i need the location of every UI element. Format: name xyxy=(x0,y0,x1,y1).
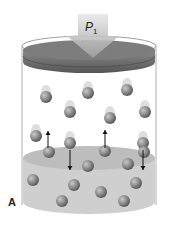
panel-label: A xyxy=(8,196,16,208)
molecule xyxy=(30,130,42,142)
molecule xyxy=(64,106,76,118)
pressure-subscript: 1 xyxy=(93,27,97,36)
molecule xyxy=(82,87,94,99)
molecule xyxy=(40,91,52,103)
molecule xyxy=(56,195,68,207)
molecule xyxy=(104,112,116,124)
pressure-label: P1 xyxy=(85,20,97,36)
molecule xyxy=(118,195,130,207)
molecule xyxy=(27,174,39,186)
molecule xyxy=(130,177,142,189)
molecule xyxy=(64,137,76,149)
molecule xyxy=(68,179,80,191)
pressure-symbol: P xyxy=(85,20,93,34)
molecule xyxy=(121,84,133,96)
arrow-up-icon xyxy=(46,131,51,135)
arrow-up-icon xyxy=(103,130,108,134)
molecule xyxy=(82,160,94,172)
molecule xyxy=(122,158,134,170)
molecule xyxy=(43,146,55,158)
molecule xyxy=(139,106,151,118)
molecule xyxy=(95,186,107,198)
molecule xyxy=(138,146,150,158)
